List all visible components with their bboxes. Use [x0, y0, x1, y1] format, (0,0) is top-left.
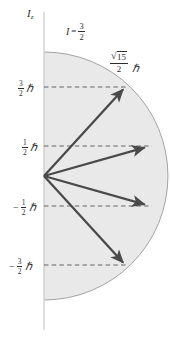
- tick-label-plus-3-2: 3 2 ℏ: [16, 80, 33, 97]
- radicand: 15: [117, 51, 128, 62]
- shaded-半-disc: [44, 52, 168, 300]
- z-axis-label: Iz: [27, 8, 33, 21]
- tick-hbar: ℏ: [29, 202, 36, 213]
- tick-numerator: 3: [18, 80, 24, 89]
- hbar-symbol: ℏ: [132, 63, 139, 74]
- magnitude-numerator: √ 15: [110, 51, 128, 64]
- spin-value-fraction: 3 2: [78, 22, 84, 41]
- tick-denominator: 2: [17, 267, 23, 275]
- tick-denominator: 2: [21, 208, 27, 216]
- tick-hbar: ℏ: [30, 142, 37, 153]
- spin-numerator: 3: [78, 22, 84, 32]
- axis-subscript: z: [31, 13, 34, 21]
- tick-label-minus-1-2: − 1 2 ℏ: [13, 199, 36, 216]
- spin-denominator: 2: [78, 32, 84, 41]
- tick-denominator: 2: [22, 148, 28, 156]
- tick-fraction: 1 2: [21, 199, 27, 216]
- tick-hbar: ℏ: [25, 261, 32, 272]
- equals-sign: =: [71, 27, 76, 36]
- spin-symbol: I: [66, 27, 69, 37]
- vector-magnitude-label: √ 15 2 ℏ: [110, 51, 139, 74]
- vector-model-figure: Iz I = 3 2 √ 15 2 ℏ 3 2 ℏ: [0, 0, 171, 344]
- tick-fraction: 3 2: [17, 258, 23, 275]
- magnitude-fraction: √ 15 2: [110, 51, 128, 74]
- tick-sign: −: [13, 203, 19, 213]
- tick-hbar: ℏ: [26, 83, 33, 94]
- tick-label-minus-3-2: − 3 2 ℏ: [9, 258, 32, 275]
- tick-sign: −: [9, 262, 15, 272]
- magnitude-denominator: 2: [116, 64, 123, 74]
- tick-denominator: 2: [18, 89, 24, 97]
- tick-fraction: 3 2: [18, 80, 24, 97]
- tick-fraction: 1 2: [22, 139, 28, 156]
- tick-label-plus-1-2: 1 2 ℏ: [20, 139, 37, 156]
- tick-numerator: 3: [17, 258, 23, 267]
- square-root-expression: √ 15: [111, 51, 127, 62]
- tick-numerator: 1: [22, 139, 28, 148]
- tick-numerator: 1: [21, 199, 27, 208]
- spin-quantum-number-label: I = 3 2: [66, 22, 85, 41]
- vector-model-canvas: [0, 0, 171, 344]
